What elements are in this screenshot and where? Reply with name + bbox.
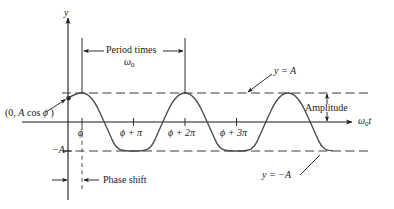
period-omega: ω	[124, 56, 131, 67]
phase-shift-label: Phase shift	[103, 175, 147, 185]
x-axis-label: ω0t	[358, 116, 371, 128]
y-axis-label: y	[64, 8, 68, 18]
x-tick-label-phi-2pi: ϕ + 2π	[168, 128, 195, 138]
intercept-cos: cos	[24, 107, 42, 118]
lower-line-label: y = −A	[262, 170, 291, 180]
x-tick-label-phi-pi: ϕ + π	[120, 128, 142, 138]
intercept-close: )	[48, 107, 54, 118]
y-intercept-marker	[66, 96, 70, 100]
x-axis-label-tail: t	[369, 115, 372, 126]
period-label-line2: ω0	[124, 57, 135, 69]
intercept-open: (0,	[5, 107, 18, 118]
upper-line-leader	[248, 74, 272, 92]
x-axis-label-base: ω	[358, 115, 365, 126]
x-tick-label-phi-3pi: ϕ + 3π	[220, 128, 247, 138]
y-tick-label-minus-a: −A	[52, 145, 65, 155]
period-label-line1: Period times	[106, 45, 156, 55]
y-intercept-label: (0, A cos ϕ )	[5, 108, 54, 118]
amplitude-label: Amplitude	[305, 103, 348, 113]
x-tick-label-phi: ϕ	[78, 128, 83, 138]
sinusoid-phase-shift-figure: y ω0t Period times ω0 y = A y = −A Ampli…	[0, 0, 394, 209]
upper-line-label: y = A	[274, 66, 296, 76]
lower-line-leader	[300, 155, 320, 175]
period-omega-sub: 0	[131, 61, 135, 69]
